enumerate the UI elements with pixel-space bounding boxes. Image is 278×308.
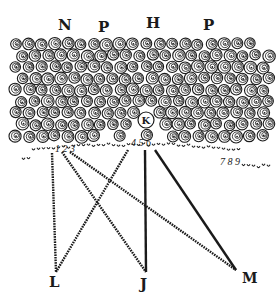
- cell: [159, 73, 171, 85]
- cell: [219, 130, 231, 142]
- cell: [42, 73, 54, 85]
- fiber-stub: [172, 143, 175, 145]
- cell: [263, 72, 274, 83]
- label-n: N: [58, 16, 72, 34]
- cell: [30, 120, 41, 131]
- cell: [146, 72, 158, 84]
- fiber-stub: [182, 145, 185, 147]
- cell: [23, 107, 35, 119]
- cell: [173, 49, 185, 61]
- cell: [88, 84, 99, 95]
- label-m: M: [242, 270, 258, 286]
- fiber-stub: [217, 147, 220, 149]
- fiber-stub: [32, 148, 35, 150]
- cell: [218, 38, 230, 50]
- cell: [258, 107, 270, 119]
- cell: [153, 85, 164, 96]
- rays: [52, 150, 236, 272]
- cell: [263, 96, 274, 107]
- cell: [89, 107, 101, 119]
- cell: [108, 119, 119, 130]
- cell: [244, 61, 257, 74]
- cell: [62, 107, 73, 118]
- fiber-stub: [47, 147, 50, 149]
- fiber-stub: [112, 144, 115, 146]
- cell: [263, 118, 275, 130]
- cell: [37, 107, 48, 118]
- fiber-stub: [87, 144, 90, 146]
- fiber-stub: [202, 147, 205, 149]
- cell: [133, 73, 144, 84]
- cell: [75, 85, 87, 97]
- cell: [245, 84, 258, 97]
- cell: [63, 37, 75, 49]
- cell: [50, 85, 61, 96]
- cell: [180, 38, 191, 49]
- cell: [115, 61, 127, 73]
- cell: [36, 84, 47, 95]
- fiber-stub: [262, 164, 265, 166]
- cell: [62, 62, 73, 73]
- fiber-stub: [157, 143, 160, 145]
- fiber-stub: [167, 143, 170, 145]
- cell: [166, 106, 178, 118]
- fiber-stub: [42, 147, 45, 149]
- cell: [54, 49, 66, 61]
- cell: [17, 51, 28, 62]
- cell: [217, 107, 229, 119]
- cell: [232, 61, 244, 73]
- ray-3-to-m: [70, 152, 236, 270]
- cell: [108, 49, 119, 60]
- cell: [193, 131, 204, 142]
- cell: [146, 95, 157, 106]
- cell: [43, 50, 54, 61]
- cell: [174, 96, 184, 106]
- cell: [121, 119, 131, 129]
- cell: [41, 95, 54, 108]
- cell: [192, 60, 205, 73]
- cell: [249, 96, 261, 108]
- cell: [29, 50, 40, 61]
- cell: [56, 120, 67, 131]
- cell: [133, 95, 145, 107]
- cell: [251, 118, 262, 129]
- cell: [166, 85, 178, 97]
- cell: [67, 49, 79, 61]
- fiber-stub: [82, 144, 85, 146]
- cell: [55, 72, 68, 85]
- cell: [160, 50, 171, 61]
- cell: [24, 131, 35, 142]
- fiber-stub: [227, 149, 230, 151]
- cell: [199, 119, 211, 131]
- cell: [49, 107, 60, 118]
- fiber-stub: [107, 143, 110, 145]
- cell: [153, 61, 163, 71]
- cell: [62, 84, 75, 97]
- cell: [263, 50, 275, 62]
- cell: [224, 120, 234, 130]
- cell: [245, 108, 255, 118]
- fiber-stub: [212, 147, 215, 149]
- cell: [205, 130, 217, 142]
- cell: [50, 61, 61, 72]
- cell: [154, 38, 165, 49]
- fiber-stub: [267, 165, 270, 167]
- cell: [128, 107, 140, 119]
- cell: [68, 96, 79, 107]
- cell: [134, 50, 145, 61]
- fiber-stub: [197, 146, 200, 148]
- numerals-left: 1 2 3: [55, 143, 75, 154]
- cell: [230, 130, 243, 143]
- fiber-stub: [257, 166, 260, 168]
- cell: [168, 131, 179, 142]
- cell: [115, 84, 126, 95]
- cell: [127, 38, 139, 50]
- cell: [126, 83, 139, 96]
- cell: [192, 39, 203, 50]
- fiber-stub: [97, 144, 100, 146]
- cell: [211, 118, 222, 129]
- cell: [147, 49, 158, 60]
- cell: [172, 74, 183, 85]
- cell: [10, 107, 21, 118]
- cell: [160, 118, 172, 130]
